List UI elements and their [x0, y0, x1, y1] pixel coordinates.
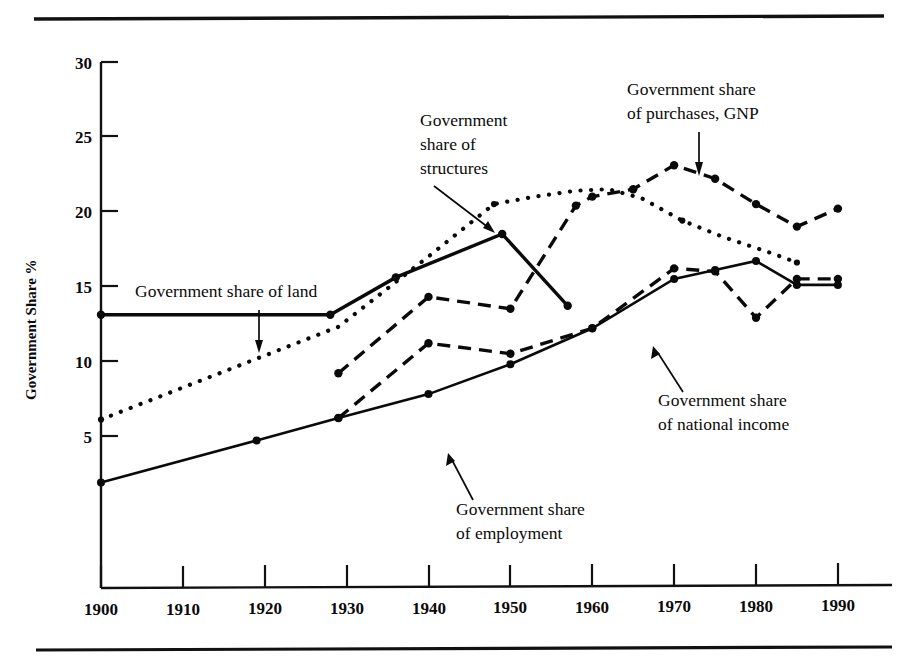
data-point-marker: [752, 200, 760, 208]
annotation-land-arrowhead: [255, 340, 263, 353]
y-tick-label-30: 30: [75, 54, 92, 73]
data-point-marker: [506, 350, 514, 358]
annotation-national-income-label-2: of national income: [658, 414, 789, 434]
x-tick-label-1940: 1940: [412, 599, 446, 618]
annotation-national-income-arrowhead: [651, 346, 660, 359]
series-path: [101, 189, 797, 419]
x-tick-marks: [101, 563, 838, 588]
x-tick-label-1910: 1910: [166, 600, 200, 619]
y-tick-label-20: 20: [75, 203, 92, 222]
x-axis: [101, 585, 892, 588]
data-point-marker: [834, 281, 842, 289]
series-path: [101, 234, 568, 315]
annotation-structures-arrowhead: [483, 221, 495, 233]
series-purchases: [334, 161, 842, 377]
data-point-marker: [424, 339, 432, 347]
x-tick-label-1970: 1970: [657, 597, 691, 616]
data-point-marker: [334, 414, 342, 422]
x-tick-label-1950: 1950: [493, 598, 527, 617]
figure-bottom-rule: [36, 647, 892, 650]
annotation-structures-label-3: structures: [420, 158, 488, 178]
data-point-marker: [491, 201, 497, 207]
data-point-marker: [834, 204, 842, 212]
annotation-employment-label: Government share: [456, 499, 585, 519]
data-point-marker: [629, 185, 637, 193]
data-point-marker: [793, 281, 801, 289]
annotation-purchases-arrowhead: [695, 162, 703, 176]
y-tick-label-10: 10: [75, 353, 92, 372]
x-tick-label-1930: 1930: [330, 599, 364, 618]
annotation-structures: Government share of structures: [420, 110, 508, 233]
data-point-marker: [564, 302, 572, 310]
data-point-marker: [506, 360, 514, 368]
annotation-structures-arrow: [434, 186, 489, 228]
data-point-marker: [498, 230, 506, 238]
data-point-marker: [711, 266, 719, 274]
annotation-employment-arrow: [452, 460, 473, 500]
y-tick-marks: [101, 62, 118, 436]
data-point-marker: [334, 369, 342, 377]
annotation-structures-label: Government: [420, 110, 508, 130]
data-point-marker: [506, 305, 514, 313]
y-tick-label-25: 25: [75, 128, 92, 147]
annotations-group: Government share of land Government shar…: [135, 79, 789, 543]
x-tick-label-1990: 1990: [821, 596, 855, 615]
annotation-employment: Government share of employment: [446, 453, 585, 543]
x-tick-label-1980: 1980: [739, 597, 773, 616]
data-point-marker: [98, 416, 104, 422]
annotation-employment-label-2: of employment: [456, 523, 563, 543]
data-point-marker: [572, 201, 580, 209]
data-point-marker: [97, 478, 105, 486]
data-point-marker: [424, 293, 432, 301]
data-point-marker: [670, 275, 678, 283]
annotation-land-label: Government share of land: [135, 281, 317, 301]
figure-top-rule: [34, 16, 884, 19]
data-point-marker: [326, 311, 334, 319]
y-axis-title: Government Share %: [23, 259, 39, 400]
chart-canvas: 30 25 20 15 10 5 1900 1910 1920 1930 194…: [0, 0, 920, 670]
data-point-marker: [97, 311, 105, 319]
annotation-national-income-label: Government share: [658, 390, 787, 410]
series-group: [97, 161, 842, 486]
data-point-marker: [253, 437, 261, 445]
data-point-marker: [588, 192, 596, 200]
annotation-purchases: Government share of purchases, GNP: [627, 79, 759, 176]
data-point-marker: [679, 218, 685, 224]
annotation-national-income: Government share of national income: [651, 346, 789, 434]
data-point-marker: [752, 314, 760, 322]
data-point-marker: [392, 273, 400, 281]
x-tick-label-1960: 1960: [575, 598, 609, 617]
y-tick-label-5: 5: [84, 428, 93, 447]
annotation-national-income-arrow: [658, 353, 683, 392]
data-point-marker: [670, 264, 678, 272]
y-tick-label-15: 15: [75, 278, 92, 297]
data-point-marker: [711, 175, 719, 183]
data-point-marker: [588, 324, 596, 332]
annotation-purchases-label-2: of purchases, GNP: [627, 103, 759, 123]
x-tick-label-1920: 1920: [248, 599, 282, 618]
data-point-marker: [794, 259, 800, 265]
annotation-purchases-label: Government share: [627, 79, 756, 99]
data-point-marker: [425, 390, 433, 398]
series-land: [97, 230, 572, 319]
x-tick-label-1900: 1900: [84, 600, 118, 619]
figure-container: 30 25 20 15 10 5 1900 1910 1920 1930 194…: [0, 0, 920, 670]
annotation-structures-label-2: share of: [420, 134, 476, 154]
data-point-marker: [752, 257, 760, 265]
data-point-marker: [670, 161, 678, 169]
data-point-marker: [793, 222, 801, 230]
annotation-land: Government share of land: [135, 281, 317, 353]
